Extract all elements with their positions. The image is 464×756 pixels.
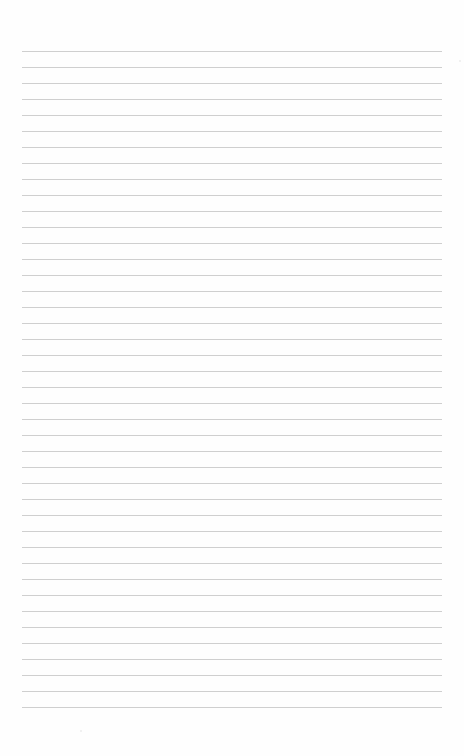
ruled-line [22, 179, 442, 180]
ruled-line [22, 323, 442, 324]
ruled-line [22, 563, 442, 564]
scan-speck [459, 60, 461, 62]
ruled-line [22, 195, 442, 196]
ruled-line [22, 227, 442, 228]
ruled-line [22, 435, 442, 436]
ruled-line [22, 467, 442, 468]
ruled-line [22, 147, 442, 148]
ruled-line [22, 83, 442, 84]
ruled-line [22, 67, 442, 68]
ruled-line [22, 499, 442, 500]
ruled-line [22, 531, 442, 532]
ruled-line [22, 691, 442, 692]
ruled-line [22, 659, 442, 660]
ruled-line [22, 99, 442, 100]
ruled-line [22, 675, 442, 676]
ruled-line [22, 211, 442, 212]
scan-speck [80, 730, 82, 732]
ruled-line [22, 259, 442, 260]
ruled-line [22, 307, 442, 308]
ruled-line [22, 403, 442, 404]
ruled-line [22, 51, 442, 52]
ruled-line [22, 275, 442, 276]
ruled-line [22, 339, 442, 340]
ruled-line [22, 371, 442, 372]
ruled-line [22, 547, 442, 548]
ruled-paper-page [0, 0, 464, 756]
ruled-line [22, 451, 442, 452]
ruled-line [22, 243, 442, 244]
ruled-line [22, 595, 442, 596]
ruled-line [22, 387, 442, 388]
ruled-line [22, 643, 442, 644]
ruled-line [22, 131, 442, 132]
ruled-line [22, 627, 442, 628]
ruled-line [22, 707, 442, 708]
ruled-line [22, 419, 442, 420]
ruled-line [22, 515, 442, 516]
ruled-line [22, 483, 442, 484]
ruled-line [22, 579, 442, 580]
ruled-line [22, 611, 442, 612]
ruled-line [22, 291, 442, 292]
ruled-line [22, 115, 442, 116]
ruled-line [22, 355, 442, 356]
ruled-line [22, 163, 442, 164]
